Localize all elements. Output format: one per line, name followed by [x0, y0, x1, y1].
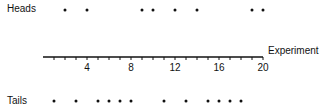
tails-dot	[240, 100, 243, 103]
svg-text:20: 20	[257, 62, 269, 73]
svg-text:16: 16	[213, 62, 225, 73]
heads-dot	[64, 9, 67, 12]
heads-dot	[86, 9, 89, 12]
heads-dot	[196, 9, 199, 12]
tails-dot	[163, 100, 166, 103]
tails-dot	[229, 100, 232, 103]
tails-dot	[130, 100, 133, 103]
experiment-dot-chart: 48121620	[0, 0, 325, 111]
heads-dots	[64, 9, 265, 12]
tails-dots	[53, 100, 243, 103]
tails-dot	[97, 100, 100, 103]
heads-dot	[174, 9, 177, 12]
tails-dot	[108, 100, 111, 103]
tails-dot	[53, 100, 56, 103]
tails-dot	[207, 100, 210, 103]
x-axis: 48121620	[43, 57, 269, 73]
tails-dot	[75, 100, 78, 103]
heads-dot	[152, 9, 155, 12]
svg-text:12: 12	[169, 62, 181, 73]
tails-dot	[185, 100, 188, 103]
svg-text:4: 4	[84, 62, 90, 73]
heads-dot	[262, 9, 265, 12]
heads-dot	[251, 9, 254, 12]
heads-dot	[141, 9, 144, 12]
tails-dot	[119, 100, 122, 103]
svg-text:8: 8	[128, 62, 134, 73]
tails-dot	[218, 100, 221, 103]
